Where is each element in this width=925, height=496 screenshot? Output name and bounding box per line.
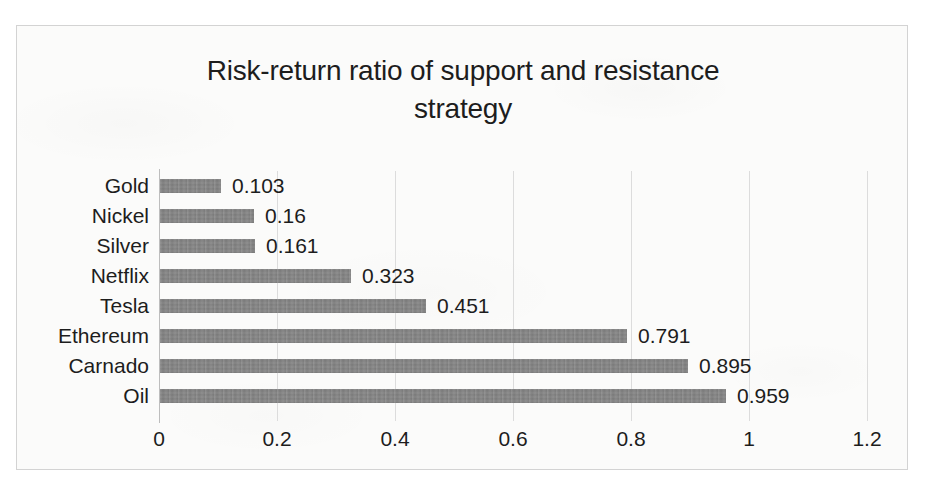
category-label-ethereum: Ethereum: [58, 324, 149, 348]
xtick-1.2: 1.2: [852, 426, 881, 452]
bar-value-netflix: 0.323: [362, 264, 415, 288]
bar-row: 0.895: [159, 351, 867, 381]
bar-value-tesla: 0.451: [437, 294, 490, 318]
plot-area: 0.103 0.16 0.161 0.323 0.451 0.791 0.895: [159, 171, 867, 421]
bar-nickel[interactable]: [160, 209, 254, 223]
bar-row: 0.103: [159, 171, 867, 201]
xtick-1: 1: [743, 426, 755, 452]
bar-silver[interactable]: [160, 239, 255, 253]
bar-row: 0.791: [159, 321, 867, 351]
category-label-oil: Oil: [123, 384, 149, 408]
bar-gold[interactable]: [160, 179, 221, 193]
chart-frame: Risk-return ratio of support and resista…: [16, 25, 908, 470]
xtick-0: 0: [153, 426, 165, 452]
bar-value-ethereum: 0.791: [638, 324, 691, 348]
bar-value-gold: 0.103: [232, 174, 285, 198]
category-label-gold: Gold: [105, 174, 149, 198]
chart-title-line-2: strategy: [97, 90, 829, 128]
bar-netflix[interactable]: [160, 269, 351, 283]
bar-row: 0.161: [159, 231, 867, 261]
bar-value-oil: 0.959: [737, 384, 790, 408]
bar-row: 0.451: [159, 291, 867, 321]
chart-title: Risk-return ratio of support and resista…: [97, 52, 829, 128]
value-axis-labels: 0 0.2 0.4 0.6 0.8 1 1.2: [17, 426, 908, 458]
bar-ethereum[interactable]: [160, 329, 627, 343]
bar-oil[interactable]: [160, 389, 726, 403]
xtick-0.4: 0.4: [380, 426, 409, 452]
category-label-nickel: Nickel: [92, 204, 149, 228]
xtick-0.6: 0.6: [498, 426, 527, 452]
category-axis: Gold Nickel Silver Netflix Tesla Ethereu…: [17, 171, 149, 421]
category-label-netflix: Netflix: [91, 264, 149, 288]
bar-tesla[interactable]: [160, 299, 426, 313]
xtick-0.8: 0.8: [616, 426, 645, 452]
bar-value-nickel: 0.16: [265, 204, 306, 228]
category-label-carnado: Carnado: [68, 354, 149, 378]
category-label-tesla: Tesla: [100, 294, 149, 318]
bar-row: 0.16: [159, 201, 867, 231]
bar-row: 0.323: [159, 261, 867, 291]
bar-value-silver: 0.161: [266, 234, 319, 258]
bar-value-carnado: 0.895: [699, 354, 752, 378]
xtick-0.2: 0.2: [262, 426, 291, 452]
bar-carnado[interactable]: [160, 359, 688, 373]
category-label-silver: Silver: [96, 234, 149, 258]
chart-title-line-1: Risk-return ratio of support and resista…: [97, 52, 829, 90]
bar-row: 0.959: [159, 381, 867, 411]
gridline-1.2: [867, 171, 868, 421]
